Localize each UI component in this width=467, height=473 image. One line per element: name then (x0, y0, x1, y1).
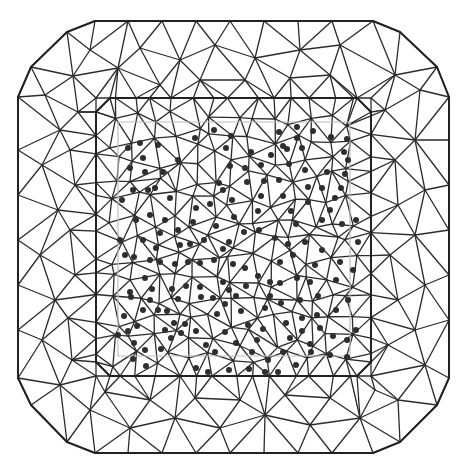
data-point-dot (242, 165, 248, 171)
mesh-edge (159, 298, 171, 304)
mesh-edge (135, 315, 155, 322)
mesh-edge (96, 264, 112, 272)
data-point-dot (254, 337, 260, 343)
mesh-edge (110, 367, 113, 376)
data-point-dot (127, 289, 133, 295)
mesh-edge (96, 214, 109, 222)
mesh-edge (311, 142, 331, 143)
mesh-edge (240, 376, 253, 400)
mesh-edge (300, 45, 340, 50)
mesh-edge (157, 353, 167, 364)
mesh-edge (160, 274, 172, 297)
mesh-edge (333, 295, 345, 296)
mesh-edge (58, 210, 96, 214)
mesh-edge (415, 90, 420, 140)
mesh-edge (18, 330, 42, 340)
data-point-dot (353, 217, 359, 223)
data-point-dot (293, 221, 299, 227)
data-point-dot (288, 208, 294, 214)
mesh-edge (398, 400, 400, 442)
mesh-edge (216, 160, 231, 183)
mesh-edge (313, 346, 326, 353)
data-point-dot (183, 283, 189, 289)
data-point-dot (299, 328, 305, 334)
mesh-edge (18, 195, 58, 210)
data-point-dot (140, 307, 146, 313)
mesh-edge (267, 165, 275, 175)
mesh-edge (340, 21, 373, 45)
mesh-edge (78, 112, 96, 136)
mesh-edge (227, 186, 230, 205)
mesh-edge (326, 171, 332, 202)
mesh-edge (18, 165, 42, 195)
mesh-edge (73, 50, 90, 76)
mesh-edge (312, 317, 328, 318)
mesh-edge (18, 285, 55, 300)
data-point-dot (152, 185, 158, 191)
data-point-dot (284, 146, 290, 152)
mesh-edge (196, 428, 220, 453)
mesh-edge (271, 208, 279, 221)
mesh-edge (150, 85, 160, 98)
mesh-edge (133, 263, 160, 275)
mesh-edge (197, 183, 216, 185)
mesh-edge (95, 428, 130, 453)
mesh-edge (290, 78, 291, 98)
mesh-edge (73, 76, 96, 98)
mesh-edge (245, 80, 258, 98)
mesh-edge (60, 376, 96, 385)
mesh-edge (175, 216, 189, 227)
mesh-edge (395, 140, 415, 160)
data-point-dot (287, 335, 293, 341)
mesh-edge (192, 277, 217, 278)
mesh-edge (388, 330, 415, 345)
data-point-dot (283, 320, 289, 326)
data-point-dot (153, 245, 159, 251)
mesh-edge (420, 90, 449, 97)
mesh-edge (96, 199, 112, 215)
data-point-dot (119, 197, 125, 203)
data-point-dot (187, 241, 193, 247)
mesh-edge (70, 150, 96, 154)
mesh-edge (333, 157, 346, 169)
mesh-edge (197, 164, 198, 185)
mesh-edge (338, 237, 345, 239)
mesh-edge (306, 258, 331, 265)
mesh-edge (130, 263, 132, 280)
mesh-edge (118, 68, 160, 85)
data-point-dot (243, 283, 249, 289)
mesh-edge (297, 264, 306, 275)
data-point-dot (327, 207, 333, 213)
mesh-edge (58, 210, 70, 230)
data-point-dot (246, 366, 252, 372)
mesh-edge (96, 148, 110, 154)
mesh-edge (90, 21, 95, 50)
mesh-edge (325, 334, 353, 335)
mesh-edge (116, 98, 138, 113)
data-point-dot (175, 296, 181, 302)
data-point-dot (302, 239, 308, 245)
mesh-edge (116, 113, 138, 118)
mesh-edge (249, 171, 253, 201)
mesh-edge (255, 21, 264, 58)
mesh-edge (197, 184, 213, 196)
mesh-edge (135, 376, 150, 400)
mesh-edge (239, 201, 252, 224)
data-point-dot (140, 155, 146, 161)
mesh-edge (156, 112, 170, 122)
mesh-edge (371, 193, 398, 205)
data-point-dot (344, 337, 350, 343)
mesh-edge (264, 415, 265, 453)
mesh-edge (228, 98, 240, 118)
mesh-edge (230, 253, 253, 282)
mesh-edge (233, 118, 240, 136)
mesh-edge (309, 227, 316, 234)
mesh-edge (360, 418, 400, 442)
mesh-edge (264, 21, 300, 50)
mesh-edge (420, 67, 437, 90)
data-point-dot (260, 326, 266, 332)
mesh-edge (18, 130, 60, 150)
mesh-edge (371, 233, 415, 235)
mesh-edge (105, 392, 150, 400)
mesh-edge (388, 345, 425, 365)
